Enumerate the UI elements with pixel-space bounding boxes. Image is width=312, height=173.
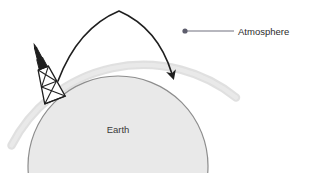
diagram-canvas: Atmosphere Earth [0,0,312,173]
earth-label: Earth [107,124,130,135]
launch-tower [23,41,65,104]
atmosphere-leader-line [182,28,234,33]
physics-diagram: Atmosphere Earth [0,0,312,173]
atmosphere-label: Atmosphere [238,26,289,37]
leader-dot [182,28,187,33]
